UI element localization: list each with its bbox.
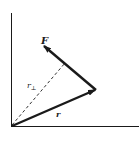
torque-diagram: F r⊥ r [0, 0, 139, 142]
force-vector-arrow [44, 46, 96, 90]
moment-arm-label: r⊥ [27, 81, 36, 91]
position-label: r [56, 109, 61, 119]
diagram-canvas: F r⊥ r [0, 0, 139, 142]
force-label: F [40, 35, 49, 46]
position-vector-arrow [12, 90, 95, 126]
moment-arm-label-subscript: ⊥ [31, 84, 37, 91]
